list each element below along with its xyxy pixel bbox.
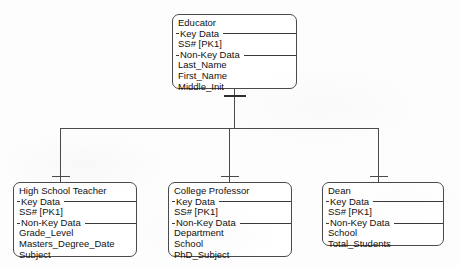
entity-educator[interactable]: Educator Key Data SS# [PK1] Non-Key Data…	[172, 14, 297, 89]
entity-dean[interactable]: Dean Key Data SS# [PK1] Non-Key Data Sch…	[322, 182, 444, 246]
subtype-connector-line-high-school-teacher	[60, 128, 61, 182]
subtype-connector-line-college-professor	[229, 128, 230, 182]
divider-rule	[223, 33, 296, 34]
divider-rule	[240, 223, 291, 224]
entity-title: High School Teacher	[14, 185, 136, 197]
subtype-tick-high-school-teacher	[52, 176, 70, 177]
divider-dash-icon	[172, 201, 175, 202]
diagram-canvas: Educator Key Data SS# [PK1] Non-Key Data…	[0, 0, 460, 266]
attribute: Masters_Degree_Date	[14, 239, 136, 250]
attribute: Middle_Init	[173, 82, 296, 93]
subtype-tick-dean	[370, 176, 388, 177]
divider-rule	[85, 223, 136, 224]
divider-rule	[394, 223, 443, 224]
entity-title: College Professor	[169, 185, 291, 197]
attribute: Total_Students	[323, 239, 443, 250]
attribute: Subject	[14, 250, 136, 261]
entity-title: Dean	[323, 185, 443, 197]
divider-rule	[64, 201, 136, 202]
attribute: PhD_Subject	[169, 250, 291, 261]
divider-dash-icon	[17, 223, 20, 224]
divider-rule	[219, 201, 291, 202]
divider-dash-icon	[326, 223, 329, 224]
divider-dash-icon	[326, 201, 329, 202]
attribute: First_Name	[173, 71, 296, 82]
attribute: School	[169, 239, 291, 250]
subtype-tick-college-professor	[221, 176, 239, 177]
entity-college-professor[interactable]: College Professor Key Data SS# [PK1] Non…	[168, 182, 292, 257]
divider-rule	[244, 55, 296, 56]
divider-dash-icon	[17, 201, 20, 202]
cardinality-one-bar	[224, 95, 246, 97]
entity-title: Educator	[173, 17, 296, 29]
divider-rule	[373, 201, 443, 202]
divider-dash-icon	[176, 33, 179, 34]
subtype-connector-line-dean	[378, 128, 379, 182]
entity-high-school-teacher[interactable]: High School Teacher Key Data SS# [PK1] N…	[13, 182, 137, 257]
divider-dash-icon	[172, 223, 175, 224]
divider-dash-icon	[176, 55, 179, 56]
subtype-bus-line	[60, 128, 379, 129]
